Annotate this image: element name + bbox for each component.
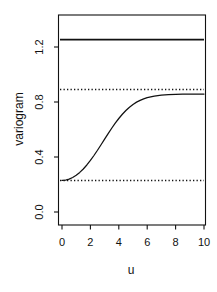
x-tick-label-10: 10	[192, 236, 216, 248]
x-tick-label-0: 0	[50, 236, 74, 248]
y-axis-title: variogram	[12, 84, 26, 154]
x-tick-label-8: 8	[164, 236, 188, 248]
y-axis-ticks	[54, 47, 59, 212]
y-tick-label-0-4: 0.4	[33, 145, 45, 169]
x-axis-title: u	[119, 263, 143, 277]
y-tick-label-0-0: 0.0	[33, 200, 45, 224]
y-tick-label-0-8: 0.8	[33, 90, 45, 114]
x-tick-label-6: 6	[135, 236, 159, 248]
x-axis-ticks	[62, 225, 204, 230]
plot-frame-box	[59, 15, 206, 225]
variogram-chart-figure: 1.2 0.8 0.4 0.0 0 2 4 6 8 10 variogram u	[0, 0, 217, 292]
y-tick-label-1-2: 1.2	[33, 35, 45, 59]
x-tick-label-4: 4	[107, 236, 131, 248]
x-tick-label-2: 2	[78, 236, 102, 248]
variogram-curve	[62, 94, 204, 180]
